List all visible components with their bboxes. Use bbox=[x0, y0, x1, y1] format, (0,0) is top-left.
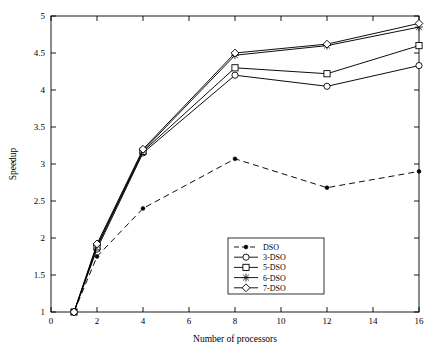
marker-dot bbox=[233, 157, 237, 161]
marker-diamond bbox=[415, 20, 423, 28]
legend-label-6-dso: 6-DSO bbox=[263, 274, 286, 283]
marker-dot bbox=[244, 245, 248, 249]
y-tick-label: 2.5 bbox=[34, 196, 46, 206]
y-axis-title: Speedup bbox=[8, 147, 18, 180]
marker-circle bbox=[324, 83, 330, 89]
y-tick-label: 2 bbox=[41, 233, 46, 243]
marker-circle bbox=[232, 72, 238, 78]
x-tick-label: 8 bbox=[233, 316, 238, 326]
x-axis-title: Number of processors bbox=[193, 334, 277, 344]
x-tick-label: 0 bbox=[49, 316, 54, 326]
speedup-chart: 024681012141611.522.533.544.55Number of … bbox=[0, 0, 434, 359]
x-tick-label: 6 bbox=[187, 316, 192, 326]
y-tick-label: 4.5 bbox=[34, 48, 46, 58]
x-tick-label: 12 bbox=[323, 316, 332, 326]
y-tick-label: 3 bbox=[41, 159, 46, 169]
marker-square bbox=[243, 264, 249, 270]
legend-label-5-dso: 5-DSO bbox=[263, 263, 286, 272]
x-tick-label: 2 bbox=[95, 316, 100, 326]
x-tick-label: 4 bbox=[141, 316, 146, 326]
y-tick-label: 1 bbox=[41, 307, 46, 317]
legend-label-dso: DSO bbox=[263, 243, 279, 252]
marker-circle bbox=[243, 254, 249, 260]
chart-canvas: 024681012141611.522.533.544.55Number of … bbox=[0, 0, 434, 359]
y-tick-label: 1.5 bbox=[34, 270, 46, 280]
marker-square bbox=[416, 43, 422, 49]
marker-diamond bbox=[323, 40, 331, 48]
marker-dot bbox=[325, 186, 329, 190]
legend-label-7-dso: 7-DSO bbox=[263, 284, 286, 293]
x-tick-label: 10 bbox=[277, 316, 287, 326]
legend-label-3-dso: 3-DSO bbox=[263, 253, 286, 262]
marker-square bbox=[324, 71, 330, 77]
y-tick-label: 5 bbox=[41, 11, 46, 21]
marker-dot bbox=[95, 255, 99, 259]
y-tick-label: 4 bbox=[41, 85, 46, 95]
legend: DSO3-DSO5-DSO6-DSO7-DSO bbox=[228, 238, 324, 294]
x-tick-label: 16 bbox=[415, 316, 425, 326]
marker-circle bbox=[416, 62, 422, 68]
x-tick-label: 14 bbox=[369, 316, 379, 326]
marker-dot bbox=[141, 207, 145, 211]
marker-square bbox=[232, 65, 238, 71]
marker-dot bbox=[417, 170, 421, 174]
y-tick-label: 3.5 bbox=[34, 122, 46, 132]
